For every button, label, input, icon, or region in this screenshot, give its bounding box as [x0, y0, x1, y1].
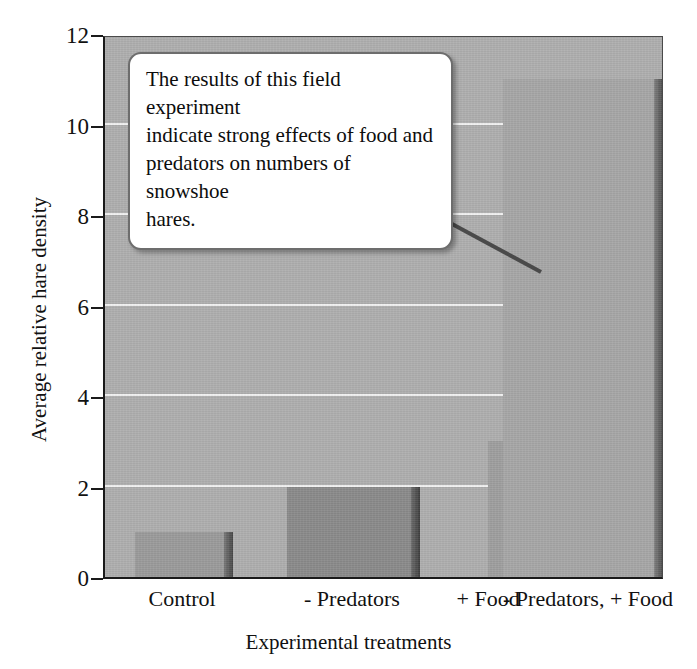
chart-figure: Average relative hare density 024681012 … — [0, 0, 697, 669]
bar-face — [287, 487, 420, 578]
y-axis-tick — [91, 488, 103, 490]
y-axis-tick — [91, 126, 103, 128]
y-axis-title: Average relative hare density — [27, 110, 52, 530]
bar — [135, 532, 233, 577]
y-axis-tick — [91, 216, 103, 218]
callout-box: The results of this field experiment ind… — [128, 52, 453, 250]
y-axis-tick — [91, 307, 103, 309]
bar-shadow-edge — [224, 532, 233, 577]
bar — [503, 79, 663, 577]
callout-text-line-2: indicate strong effects of food and — [146, 122, 435, 150]
x-axis-tick-label: Control — [149, 588, 216, 610]
y-axis-tick-label: 2 — [49, 477, 89, 500]
y-axis-tick-label: 10 — [49, 115, 89, 138]
y-axis-tick — [91, 578, 103, 580]
bar-face — [503, 79, 663, 577]
y-axis-tick-label: 6 — [49, 296, 89, 319]
x-axis-tick-label: - Predators — [304, 588, 400, 610]
callout-text-line-1: The results of this field experiment — [146, 66, 435, 122]
bar — [287, 487, 420, 578]
callout-text-line-4: hares. — [146, 206, 435, 234]
y-axis-tick — [91, 35, 103, 37]
bar-shadow-edge — [411, 487, 420, 578]
callout-text-line-3: predators on numbers of snowshoe — [146, 150, 435, 206]
bar-face — [135, 532, 233, 577]
y-axis-tick-label: 0 — [49, 567, 89, 590]
y-axis-tick-label: 8 — [49, 205, 89, 228]
x-axis-tick-label: - Predators, + Food — [503, 588, 673, 610]
bar-shadow-edge — [654, 79, 663, 577]
y-axis-tick-label: 4 — [49, 386, 89, 409]
y-axis-tick — [91, 397, 103, 399]
x-axis-title: Experimental treatments — [0, 630, 697, 655]
y-axis-tick-label: 12 — [49, 24, 89, 47]
